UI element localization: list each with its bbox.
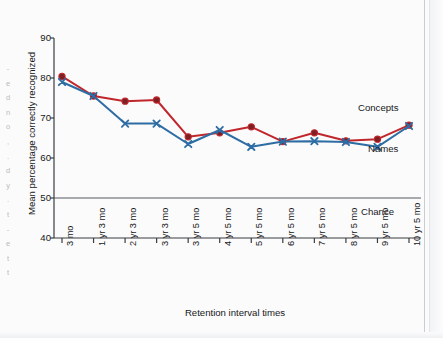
line-chart: Mean percentage correctly recognized Ret… (0, 0, 443, 338)
series-label-concepts: Concepts (358, 102, 399, 113)
data-point-concepts (248, 124, 254, 130)
data-point-concepts (374, 136, 380, 142)
series-label-names: Names (368, 143, 398, 154)
reference-line-label-chance: Chance (361, 206, 394, 217)
data-point-concepts (185, 134, 191, 140)
series-line-names (62, 82, 409, 147)
data-point-concepts (154, 97, 160, 103)
series-line-concepts (62, 76, 409, 141)
data-point-concepts (311, 130, 317, 136)
data-point-concepts (122, 98, 128, 104)
plot-area (0, 0, 443, 338)
